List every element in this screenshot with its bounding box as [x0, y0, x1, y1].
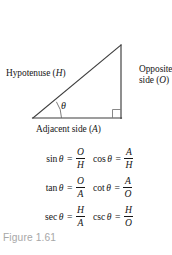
function-name: tan	[46, 182, 58, 193]
formula-sec: sec θ = H A	[29, 205, 85, 227]
formula-row: tan θ = O A cot θ = A O	[0, 173, 172, 202]
adjacent-label-close: )	[98, 124, 101, 134]
theta-symbol: θ	[107, 153, 112, 164]
fraction-denominator: A	[77, 188, 85, 199]
function-name: cot	[93, 182, 105, 193]
opposite-label-close: )	[166, 75, 169, 85]
fraction: O A	[76, 176, 85, 198]
fraction-denominator: O	[124, 217, 133, 228]
equals-sign: =	[115, 211, 120, 222]
figure-caption: Figure 1.61	[3, 232, 56, 243]
fraction-denominator: H	[76, 159, 85, 170]
hypotenuse-label-close: )	[62, 68, 65, 78]
function-name: sin	[46, 153, 57, 164]
theta-symbol: θ	[59, 182, 64, 193]
fraction: A H	[124, 147, 133, 169]
formula-cos: cos θ = A H	[85, 147, 143, 169]
formula-csc: csc θ = H O	[85, 205, 143, 227]
fraction-numerator: A	[124, 176, 132, 187]
fraction-denominator: H	[124, 159, 133, 170]
equals-sign: =	[116, 153, 121, 164]
formula-tan: tan θ = O A	[29, 176, 85, 198]
fraction-numerator: H	[76, 205, 85, 216]
formula-row: sec θ = H A csc θ = H O	[0, 202, 172, 231]
equals-sign: =	[67, 182, 72, 193]
fraction-numerator: A	[125, 147, 133, 158]
fraction: O H	[76, 147, 85, 169]
hypotenuse-line	[33, 45, 121, 118]
equals-sign: =	[67, 153, 72, 164]
theta-symbol: θ	[107, 211, 112, 222]
triangle-diagram: Hypotenuse (H) Opposite side (O) Adjacen…	[0, 0, 172, 142]
fraction-numerator: O	[76, 147, 85, 158]
equals-sign: =	[114, 182, 119, 193]
fraction: A O	[123, 176, 132, 198]
fraction-numerator: H	[124, 205, 133, 216]
fraction-denominator: A	[77, 217, 85, 228]
theta-angle-label: θ	[61, 101, 66, 112]
formula-row: sin θ = O H cos θ = A H	[0, 144, 172, 173]
formula-sin: sin θ = O H	[29, 147, 85, 169]
equals-sign: =	[67, 211, 72, 222]
right-angle-marker-icon	[113, 110, 122, 119]
opposite-side-label: Opposite side (O)	[139, 64, 172, 86]
trig-formula-list: sin θ = O H cos θ = A H	[0, 144, 172, 231]
function-name: csc	[93, 211, 105, 222]
fraction-numerator: O	[76, 176, 85, 187]
fraction: H A	[76, 205, 85, 227]
theta-symbol: θ	[106, 182, 111, 193]
theta-symbol: θ	[59, 211, 64, 222]
function-name: cos	[93, 153, 106, 164]
adjacent-label-text: Adjacent side (	[36, 124, 92, 134]
figure-container: Hypotenuse (H) Opposite side (O) Adjacen…	[0, 0, 172, 255]
fraction: H O	[124, 205, 133, 227]
adjacent-side-label: Adjacent side (A)	[36, 124, 101, 135]
opposite-variable: O	[159, 75, 166, 85]
hypotenuse-label: Hypotenuse (H)	[6, 68, 65, 79]
fraction-denominator: O	[123, 188, 132, 199]
hypotenuse-label-text: Hypotenuse (	[6, 68, 56, 78]
function-name: sec	[45, 211, 57, 222]
theta-symbol: θ	[59, 153, 64, 164]
formula-cot: cot θ = A O	[85, 176, 143, 198]
